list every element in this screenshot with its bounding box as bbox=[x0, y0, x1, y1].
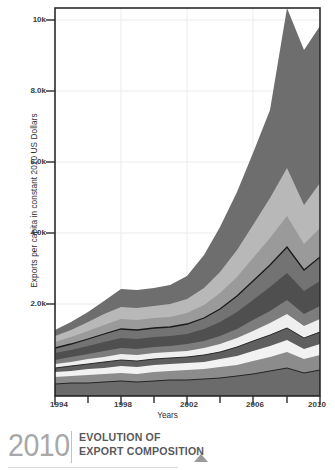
footer-bottom-rule bbox=[8, 467, 178, 468]
x-tick-label: 2010 bbox=[297, 400, 335, 409]
y-tick-marks bbox=[46, 20, 55, 304]
chart-footer: 2010 EVOLUTION OF EXPORT COMPOSITION bbox=[0, 430, 335, 470]
footer-title: EVOLUTION OF EXPORT COMPOSITION bbox=[79, 431, 204, 458]
footer-title-line2: EXPORT COMPOSITION bbox=[79, 445, 204, 459]
x-tick-label: 2006 bbox=[235, 400, 275, 409]
x-axis-title: Years bbox=[0, 411, 335, 420]
x-tick-label: 2002 bbox=[169, 400, 209, 409]
footer-divider bbox=[71, 431, 72, 463]
footer-title-line1: EVOLUTION OF bbox=[79, 431, 204, 445]
chart-figure: Exports per capita in constant 2010 US D… bbox=[0, 0, 335, 470]
footer-year: 2010 bbox=[8, 430, 70, 462]
x-tick-label: 1998 bbox=[103, 400, 143, 409]
x-tick-label: 1994 bbox=[39, 400, 79, 409]
triangle-up-icon bbox=[194, 454, 208, 462]
